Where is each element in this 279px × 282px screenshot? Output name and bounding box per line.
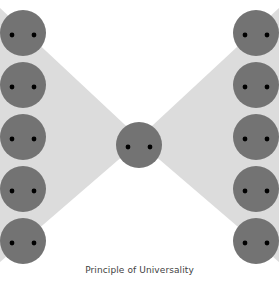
node-eye-right-icon [265, 33, 270, 38]
node-body [0, 114, 46, 160]
left-node-2 [0, 62, 46, 108]
node-eye-left-icon [243, 137, 248, 142]
right-node-4 [233, 166, 279, 212]
left-node-5 [0, 218, 46, 264]
figure-caption: Principle of Universality [0, 264, 279, 276]
node-eye-left-icon [243, 85, 248, 90]
node-eye-left-icon [10, 137, 15, 142]
node-eye-left-icon [243, 241, 248, 246]
node-body [233, 62, 279, 108]
node-body [0, 62, 46, 108]
left-node-4 [0, 166, 46, 212]
node-eye-left-icon [10, 241, 15, 246]
figure-container: Principle of Universality [0, 0, 279, 282]
node-body [116, 122, 162, 168]
node-eye-left-icon [243, 33, 248, 38]
node-eye-right-icon [265, 137, 270, 142]
right-node-2 [233, 62, 279, 108]
node-eye-right-icon [32, 241, 37, 246]
node-eye-left-icon [126, 145, 131, 150]
node-body [0, 10, 46, 56]
node-eye-left-icon [243, 189, 248, 194]
node-body [233, 166, 279, 212]
left-node-1 [0, 10, 46, 56]
node-body [0, 166, 46, 212]
node-eye-right-icon [32, 189, 37, 194]
left-node-3 [0, 114, 46, 160]
node-body [233, 114, 279, 160]
node-eye-right-icon [265, 241, 270, 246]
center-node [116, 122, 162, 168]
node-eye-left-icon [10, 189, 15, 194]
node-eye-right-icon [265, 85, 270, 90]
right-node-3 [233, 114, 279, 160]
node-body [233, 10, 279, 56]
node-eye-right-icon [32, 137, 37, 142]
node-eye-right-icon [265, 189, 270, 194]
node-eye-right-icon [32, 85, 37, 90]
right-node-1 [233, 10, 279, 56]
node-body [233, 218, 279, 264]
right-node-5 [233, 218, 279, 264]
node-eye-left-icon [10, 85, 15, 90]
node-eye-left-icon [10, 33, 15, 38]
node-eye-right-icon [32, 33, 37, 38]
universality-diagram [0, 0, 279, 282]
node-body [0, 218, 46, 264]
node-eye-right-icon [148, 145, 153, 150]
